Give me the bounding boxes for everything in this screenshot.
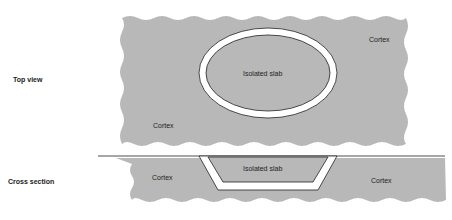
diagram-canvas <box>0 0 452 220</box>
cross-section-cortex-label-1: Cortex <box>152 174 173 181</box>
top-view-slab-label: Isolated slab <box>243 70 282 77</box>
cross-section-label: Cross section <box>8 178 54 185</box>
cross-section-slab-label: Isolated slab <box>243 165 282 172</box>
top-view-cortex-label-1: Cortex <box>369 36 390 43</box>
top-view-cortex-label-2: Cortex <box>153 122 174 129</box>
top-view-label: Top view <box>13 76 42 83</box>
cross-section-cortex-label-2: Cortex <box>371 177 392 184</box>
